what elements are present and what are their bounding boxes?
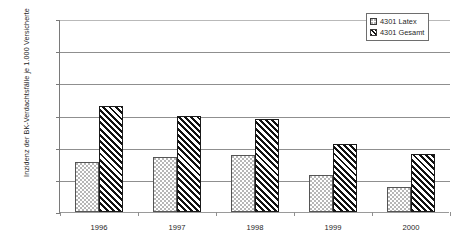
- x-tick-mark: [372, 212, 373, 216]
- y-axis-title: Inzidenz der BK-Verdachtsfälle je 1.000 …: [22, 0, 31, 193]
- x-tick-label-1998: 1998: [225, 223, 285, 232]
- x-tick-label-1997: 1997: [147, 223, 207, 232]
- x-tick-mark: [450, 212, 451, 216]
- legend-swatch-latex-icon: [370, 18, 377, 25]
- bar-gesamt-1997[interactable]: [177, 116, 201, 213]
- bar-latex-1999[interactable]: [309, 175, 333, 212]
- bar-gesamt-2000[interactable]: [411, 154, 435, 212]
- bar-gesamt-1999[interactable]: [333, 144, 357, 212]
- bar-chart: Inzidenz der BK-Verdachtsfälle je 1.000 …: [0, 0, 460, 244]
- x-tick-label-1999: 1999: [303, 223, 363, 232]
- bar-group-1997: [138, 19, 216, 212]
- bar-latex-2000[interactable]: [387, 187, 411, 212]
- x-tick-mark: [138, 212, 139, 216]
- legend-swatch-gesamt-icon: [370, 29, 377, 36]
- bar-group-1996: [60, 19, 138, 212]
- bar-gesamt-1998[interactable]: [255, 119, 279, 212]
- bar-latex-1996[interactable]: [75, 162, 99, 212]
- legend-item-latex[interactable]: 4301 Latex: [370, 16, 424, 27]
- chart-legend: 4301 Latex 4301 Gesamt: [366, 13, 429, 41]
- bar-gesamt-1996[interactable]: [99, 106, 123, 212]
- bar-latex-1998[interactable]: [231, 155, 255, 212]
- x-tick-label-1996: 1996: [69, 223, 129, 232]
- legend-item-gesamt[interactable]: 4301 Gesamt: [370, 27, 424, 38]
- legend-label-gesamt: 4301 Gesamt: [380, 28, 424, 37]
- plot-area: 00,10,20,30,40,50,619961997199819992000: [59, 20, 449, 213]
- x-tick-mark: [60, 212, 61, 216]
- bar-group-1998: [216, 19, 294, 212]
- x-tick-mark: [216, 212, 217, 216]
- x-tick-mark: [294, 212, 295, 216]
- bar-latex-1997[interactable]: [153, 157, 177, 212]
- bar-group-2000: [372, 19, 450, 212]
- x-tick-label-2000: 2000: [381, 223, 441, 232]
- bar-group-1999: [294, 19, 372, 212]
- legend-label-latex: 4301 Latex: [380, 17, 417, 26]
